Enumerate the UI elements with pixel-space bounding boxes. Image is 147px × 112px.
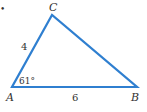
bullet-marker: • <box>0 4 5 14</box>
angle-a-measure: 61° <box>19 76 35 86</box>
vertex-b-label: B <box>130 91 139 104</box>
side-ac-length: 4 <box>21 41 27 52</box>
vertex-c-label: C <box>49 1 58 14</box>
vertex-a-label: A <box>5 91 14 104</box>
triangle-diagram: • C A B 4 6 61° <box>0 0 147 112</box>
side-ab-length: 6 <box>72 92 78 103</box>
